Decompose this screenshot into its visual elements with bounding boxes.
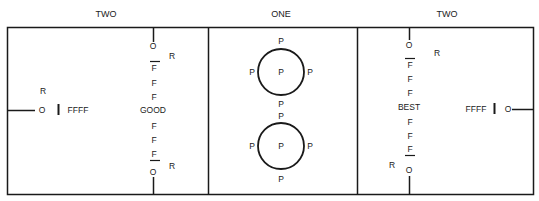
circle2-right-p: P <box>307 141 313 151</box>
right-f-4: F <box>407 117 412 127</box>
circle1-bottom-p: P <box>278 99 284 109</box>
right-f-6: F <box>407 144 412 154</box>
left-f-4: F <box>151 121 156 131</box>
section-title-left: TWO <box>96 9 117 19</box>
left-f-5: F <box>151 135 156 145</box>
right-f-3: F <box>407 88 412 98</box>
left-f-2: F <box>151 78 156 88</box>
left-side-r-label: R <box>40 86 46 96</box>
right-f-1: F <box>407 60 412 70</box>
right-center-label: BEST <box>398 102 420 112</box>
section-title-middle: ONE <box>271 9 291 19</box>
left-top-o: O <box>150 41 157 51</box>
right-f-2: F <box>407 74 412 84</box>
right-bottom-o: O <box>406 165 413 175</box>
section-title-right: TWO <box>437 9 458 19</box>
circle2-bottom-p: P <box>278 174 284 184</box>
right-ffff-label: FFFF <box>466 104 487 114</box>
right-f-5: F <box>407 131 412 141</box>
circle1-left-p: P <box>249 67 255 77</box>
left-bottom-r: R <box>169 161 175 171</box>
left-ffff-label: FFFF <box>68 105 89 115</box>
circle2-top-p: P <box>278 111 284 121</box>
circle1-top-p: P <box>278 36 284 46</box>
left-top-r: R <box>169 51 175 61</box>
diagram-lines <box>0 0 539 201</box>
right-bottom-r: R <box>389 160 395 170</box>
circle1-center-p: P <box>278 67 284 77</box>
left-center-label: GOOD <box>140 105 166 115</box>
left-f-3: F <box>151 92 156 102</box>
left-f-6: F <box>151 149 156 159</box>
circle2-left-p: P <box>249 141 255 151</box>
right-top-o: O <box>406 40 413 50</box>
left-bottom-o: O <box>150 167 157 177</box>
left-f-1: F <box>151 63 156 73</box>
circle1-right-p: P <box>307 67 313 77</box>
left-side-o-label: O <box>39 105 46 115</box>
right-top-r: R <box>434 48 440 58</box>
circle2-center-p: P <box>278 141 284 151</box>
right-side-o-label: O <box>505 104 512 114</box>
